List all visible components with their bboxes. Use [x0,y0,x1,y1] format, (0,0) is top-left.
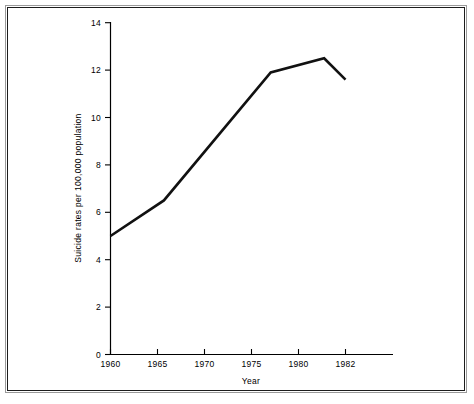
y-tick-label-0: 0 [78,350,101,360]
y-tick-label-12: 12 [78,65,101,75]
x-tick-label-1965: 1965 [147,359,167,369]
x-tick-marks [111,349,346,355]
x-tick-label-1960: 1960 [100,359,120,369]
x-tick-label-1980: 1980 [288,359,308,369]
chart-canvas [0,0,474,404]
data-series-line [111,58,346,236]
x-tick-label-1970: 1970 [194,359,214,369]
y-tick-marks [105,23,111,355]
x-tick-label-1982: 1982 [335,359,355,369]
y-tick-label-2: 2 [78,302,101,312]
x-axis-title: Year [242,376,260,386]
y-tick-label-14: 14 [78,18,101,28]
x-tick-label-1975: 1975 [241,359,261,369]
y-axis-title: Suicide rates per 100,000 population [73,113,83,262]
figure-container: 0 2 4 6 8 10 12 14 1960 1965 1970 1975 1… [0,0,474,404]
